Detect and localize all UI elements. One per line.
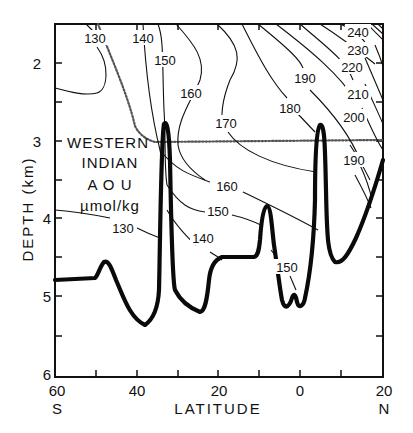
x-hemisphere-north: N [379,400,390,417]
y-axis-ticks-right [376,63,383,336]
x-tick-label: 40 [129,382,146,399]
contour-label: 150 [207,204,229,219]
contour-label: 130 [112,221,134,236]
x-tick-label: 20 [211,382,228,399]
contour-label: 150 [276,260,298,275]
annotation-line-1: WESTERN [67,134,149,151]
x-tick-label: 0 [296,382,304,399]
x-tick-label: 20 [376,382,393,399]
y-axis-ticks [55,63,62,336]
contour-label: 140 [192,231,214,246]
contour-label: 200 [343,110,365,125]
annotation-line-4: µmol/kg [80,197,140,214]
annotation-line-3: A O U [87,176,132,193]
y-tick-label: 2 [33,55,41,72]
contour-label: 190 [343,153,365,168]
chart-annotation: WESTERN INDIAN A O U µmol/kg [67,134,149,214]
x-tick-label: 60 [49,382,66,399]
contour-label: 230 [347,43,369,58]
y-tick-label: 3 [33,133,41,150]
y-tick-label: 4 [43,210,51,227]
contour-label: 150 [154,53,176,68]
contour-label: 140 [132,31,154,46]
contour-label: 240 [347,25,369,40]
contour-label: 160 [216,179,238,194]
contour-label: 190 [294,71,316,86]
contour-label: 180 [279,101,301,116]
y-axis-title: DEPTH (km) [19,157,36,262]
y-tick-label: 6 [43,366,51,383]
y-tick-label: 5 [43,288,51,305]
x-hemisphere-south: S [52,400,62,417]
contour-label: 170 [215,116,237,131]
contour-label: 160 [180,86,202,101]
contour-label: 210 [347,87,369,102]
contour-label: 220 [341,60,363,75]
contour-chart: 2 3 4 5 6 60 40 20 0 20 S N LATITUDE DEP… [0,0,413,433]
contour-label: 130 [84,31,106,46]
x-axis-title: LATITUDE [174,400,261,417]
annotation-line-2: INDIAN [82,154,139,171]
x-axis-ticks [96,370,341,377]
